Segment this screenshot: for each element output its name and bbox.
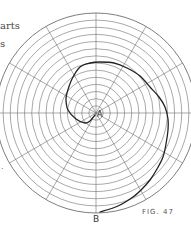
grid-radial-line [96,63,183,113]
figure-caption: FIG. 47 [142,208,174,216]
grid-radial-line [46,113,96,200]
grid-radial-line [96,26,146,113]
grid-radial-line [96,113,183,163]
point-label-a: A [97,110,103,119]
grid-radial-line [96,113,146,200]
grid-radial-line [46,26,96,113]
polar-grid [0,13,191,213]
grid-radial-line [9,63,96,113]
point-label-b: B [93,214,99,224]
grid-radial-line [9,113,96,163]
spiral-polar-diagram: A B [0,0,191,225]
